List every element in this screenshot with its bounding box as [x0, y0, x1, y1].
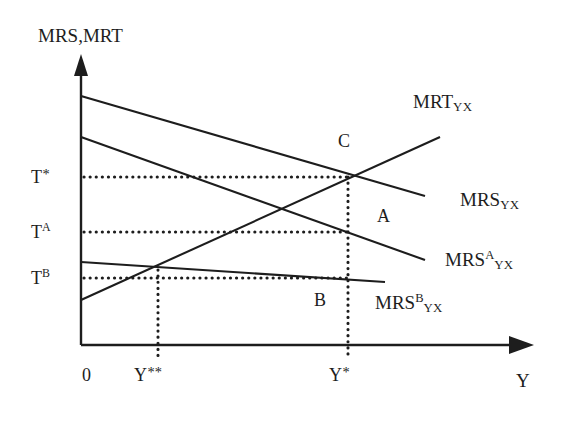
- vertical-axis-arrowhead: [74, 54, 88, 76]
- tick-superscript: **: [148, 364, 162, 380]
- point-c-label: C: [338, 132, 350, 150]
- figure-canvas: MRS,MRT Y 0 T*TATB Y**Y* MRSYXMRSAYXMRSB…: [0, 0, 564, 424]
- x-tick-label-0: Y**: [134, 366, 161, 384]
- curve-lines: [81, 96, 440, 300]
- curve-label-base: MRS: [445, 249, 485, 270]
- tick-base: Y: [329, 365, 342, 385]
- y-tick-label-0: T*: [31, 168, 49, 186]
- horizontal-axis-arrowhead: [509, 336, 534, 354]
- curve-mrs-a-yx: [81, 137, 425, 260]
- tick-superscript: A: [42, 220, 51, 234]
- curve-label-subscript: YX: [424, 300, 443, 315]
- curve-label-mrt-yx: MRTYX: [413, 92, 472, 111]
- tick-base: Y: [134, 365, 147, 385]
- diagram-svg: [0, 0, 564, 424]
- y-tick-label-1: TA: [31, 223, 51, 241]
- tick-superscript: *: [43, 166, 50, 182]
- point-letter: C: [338, 131, 350, 151]
- point-b-label: B: [314, 291, 326, 309]
- curve-label-mrs-b-yx: MRSBYX: [375, 293, 443, 312]
- curve-label-base: MRS: [460, 189, 500, 210]
- x-axis-title: Y: [516, 371, 530, 390]
- tick-base: T: [31, 268, 42, 288]
- curve-label-subscript: YX: [494, 257, 513, 272]
- origin-label: 0: [82, 366, 91, 384]
- curve-label-superscript: A: [485, 248, 494, 262]
- curve-label-superscript: B: [415, 291, 423, 305]
- point-letter: A: [377, 206, 390, 226]
- curve-mrs-yx: [81, 96, 425, 196]
- curve-label-mrs-yx: MRSYX: [460, 190, 519, 209]
- curve-label-base: MRS: [375, 292, 415, 313]
- point-a-label: A: [377, 207, 390, 225]
- y-axis-title: MRS,MRT: [38, 26, 123, 45]
- tick-superscript: B: [42, 266, 50, 280]
- tick-superscript: *: [343, 364, 350, 380]
- guide-lines: [84, 177, 348, 356]
- x-tick-label-1: Y*: [329, 366, 349, 384]
- curve-label-base: MRT: [413, 91, 453, 112]
- curve-label-subscript: YX: [453, 99, 472, 114]
- y-tick-label-2: TB: [31, 269, 50, 287]
- point-letter: B: [314, 290, 326, 310]
- tick-base: T: [31, 167, 42, 187]
- tick-base: T: [31, 222, 42, 242]
- curve-label-subscript: YX: [500, 197, 519, 212]
- curve-label-mrs-a-yx: MRSAYX: [445, 250, 513, 269]
